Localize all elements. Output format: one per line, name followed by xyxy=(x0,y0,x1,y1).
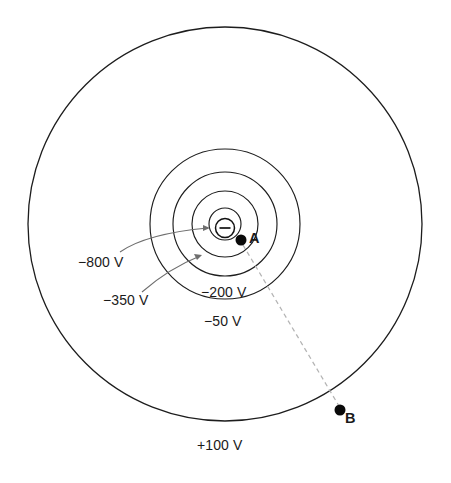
leader-line-minus-350v xyxy=(142,256,200,292)
leader-line-minus-800v xyxy=(120,228,208,252)
leader-arrowhead-minus-350v xyxy=(194,254,202,260)
dashed-path-a-to-b xyxy=(243,245,339,406)
diagram-canvas xyxy=(0,0,451,483)
point-label-a: A xyxy=(249,231,259,246)
voltage-label-minus-350v: −350 V xyxy=(103,293,148,307)
equipotential-diagram: −800 V −350 V −200 V −50 V +100 V A B xyxy=(0,0,451,483)
voltage-label-minus-800v: −800 V xyxy=(78,255,123,269)
voltage-label-plus-100v: +100 V xyxy=(197,438,242,452)
point-marker-a xyxy=(236,235,247,246)
point-label-b: B xyxy=(345,411,355,426)
voltage-label-minus-200v: −200 V xyxy=(201,285,246,299)
point-marker-b xyxy=(335,405,346,416)
voltage-label-minus-50v: −50 V xyxy=(204,314,241,328)
